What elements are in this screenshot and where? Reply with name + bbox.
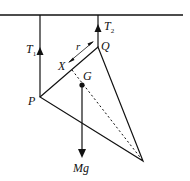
tension-arrow-t2-icon bbox=[95, 24, 102, 32]
label-q: Q bbox=[101, 39, 110, 53]
label-mg: Mg bbox=[72, 161, 89, 175]
label-p: P bbox=[27, 94, 36, 108]
r-arrowhead-upper-icon bbox=[88, 41, 95, 46]
label-g: G bbox=[83, 69, 92, 83]
label-t2: T2 bbox=[104, 19, 115, 35]
label-x: X bbox=[57, 59, 66, 73]
weight-arrowhead-icon bbox=[78, 149, 86, 158]
lamina-diagram: T1 T2 Q P X G r Mg bbox=[0, 0, 190, 181]
triangular-lamina bbox=[40, 47, 143, 161]
label-t1: T1 bbox=[26, 42, 37, 58]
label-r: r bbox=[76, 40, 81, 52]
tension-arrow-t1-icon bbox=[37, 47, 44, 55]
